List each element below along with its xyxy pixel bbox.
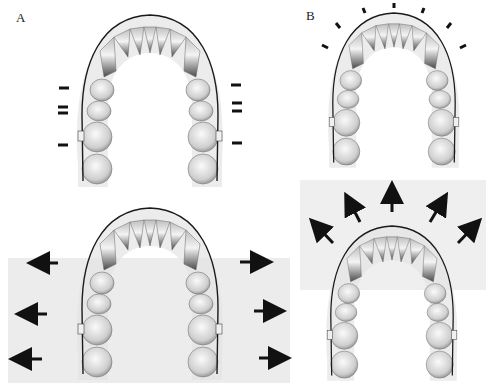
- panel-d-arch: [300, 180, 486, 381]
- panel-label-b: B: [306, 8, 315, 24]
- panel-label-a: A: [16, 10, 25, 26]
- diagram-canvas: [0, 0, 486, 390]
- panel-c-arch: [8, 208, 290, 383]
- panel-b-arch: [322, 3, 466, 168]
- panel-a-arch: [58, 15, 242, 187]
